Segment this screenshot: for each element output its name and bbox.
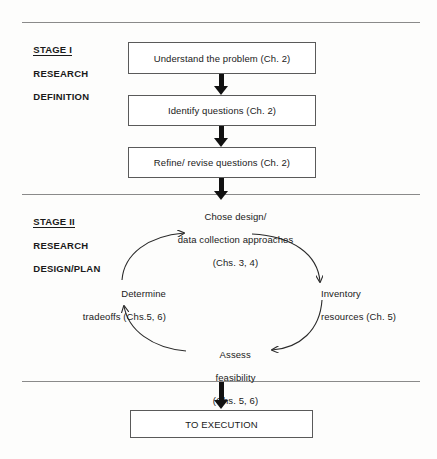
stage-1-line2: RESEARCH (33, 68, 88, 79)
cycle-node-inventory-resources: Inventory resources (Ch. 5) (310, 276, 430, 334)
box-refine-label: Refine/ revise questions (Ch. 2) (154, 157, 290, 168)
cycle-node-chose-line2: data collection approaches (178, 234, 294, 245)
stage-1-label: STAGE I RESEARCH DEFINITION (22, 32, 89, 114)
box-refine-revise-questions: Refine/ revise questions (Ch. 2) (128, 147, 316, 178)
cycle-node-assess-line2: feasibility (215, 372, 255, 383)
figure-canvas: STAGE I RESEARCH DEFINITION STAGE II RES… (0, 0, 437, 459)
box-understand-the-problem: Understand the problem (Ch. 2) (128, 42, 316, 74)
cycle-node-inventory-line1: Inventory (321, 288, 361, 299)
cycle-node-inventory-line2: resources (Ch. 5) (321, 311, 396, 322)
cycle-node-tradeoffs-line2: tradeoffs (Chs.5, 6) (83, 311, 166, 322)
cycle-node-chose-design: Chose design/ data collection approaches… (150, 199, 310, 280)
arrow-down-icon-1 (212, 74, 232, 95)
cycle-node-determine-tradeoffs: Determine tradeoffs (Chs.5, 6) (18, 276, 166, 334)
cycle-node-chose-line1: Chose design/ (204, 211, 266, 222)
cycle-node-tradeoffs-line1: Determine (121, 288, 166, 299)
box-identify-questions: Identify questions (Ch. 2) (128, 95, 316, 126)
box-identify-label: Identify questions (Ch. 2) (168, 105, 276, 116)
divider-top (22, 22, 420, 23)
arrow-down-icon-4 (212, 382, 232, 410)
box-execution-label: TO EXECUTION (185, 419, 257, 430)
box-understand-label: Understand the problem (Ch. 2) (154, 53, 291, 64)
box-to-execution: TO EXECUTION (130, 410, 313, 438)
stage-1-line3: DEFINITION (33, 91, 89, 102)
cycle-node-chose-line3: (Chs. 3, 4) (213, 257, 258, 268)
cycle-node-assess-line1: Assess (220, 349, 251, 360)
arrow-down-icon-2 (212, 126, 232, 147)
stage-1-title: STAGE I (33, 44, 72, 57)
